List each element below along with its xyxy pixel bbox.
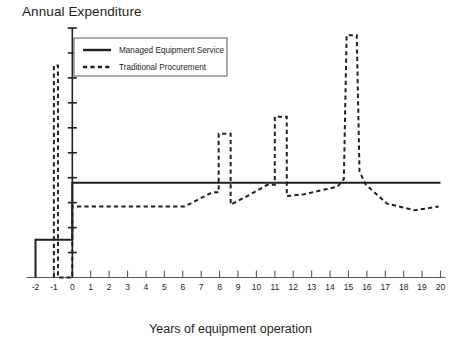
x-axis-tick-label: -2	[32, 282, 40, 292]
x-axis-tick-label: 19	[417, 282, 427, 292]
x-axis-tick-label: 9	[236, 282, 241, 292]
series-line-managed-equipment-service	[36, 183, 441, 278]
x-axis-tick-label: 16	[362, 282, 372, 292]
legend-label: Managed Equipment Service	[119, 46, 225, 55]
x-axis-tick-label: 1	[88, 282, 93, 292]
legend-label: Traditional Procurement	[119, 63, 207, 72]
x-axis-tick-label: 13	[307, 282, 317, 292]
x-axis-tick-label: 17	[381, 282, 391, 292]
x-axis-tick-label: 8	[217, 282, 222, 292]
x-axis-tick-label: 7	[199, 282, 204, 292]
x-axis-tick-label: 20	[436, 282, 446, 292]
x-axis-tick-label: 15	[344, 282, 354, 292]
chart-legend: Managed Equipment ServiceTraditional Pro…	[74, 38, 227, 76]
x-axis-tick-label: -1	[50, 282, 58, 292]
x-axis-tick-label: 2	[107, 282, 112, 292]
chart-plot-area: -2-101234567891011121314151617181920 Man…	[0, 0, 461, 354]
x-axis-tick-label: 3	[125, 282, 130, 292]
x-axis-tick-label: 5	[162, 282, 167, 292]
x-axis-tick-label: 4	[144, 282, 149, 292]
x-axis-tick-label: 14	[325, 282, 335, 292]
x-axis: -2-101234567891011121314151617181920	[27, 271, 446, 293]
x-axis-tick-label: 6	[180, 282, 185, 292]
chart-container: Annual Expenditure -2-101234567891011121…	[0, 0, 461, 354]
x-axis-tick-label: 10	[252, 282, 262, 292]
x-axis-title: Years of equipment operation	[0, 322, 461, 336]
x-axis-tick-label: 0	[70, 282, 75, 292]
x-axis-tick-label: 11	[270, 282, 279, 292]
x-axis-tick-label: 12	[288, 282, 298, 292]
x-axis-tick-label: 18	[399, 282, 409, 292]
